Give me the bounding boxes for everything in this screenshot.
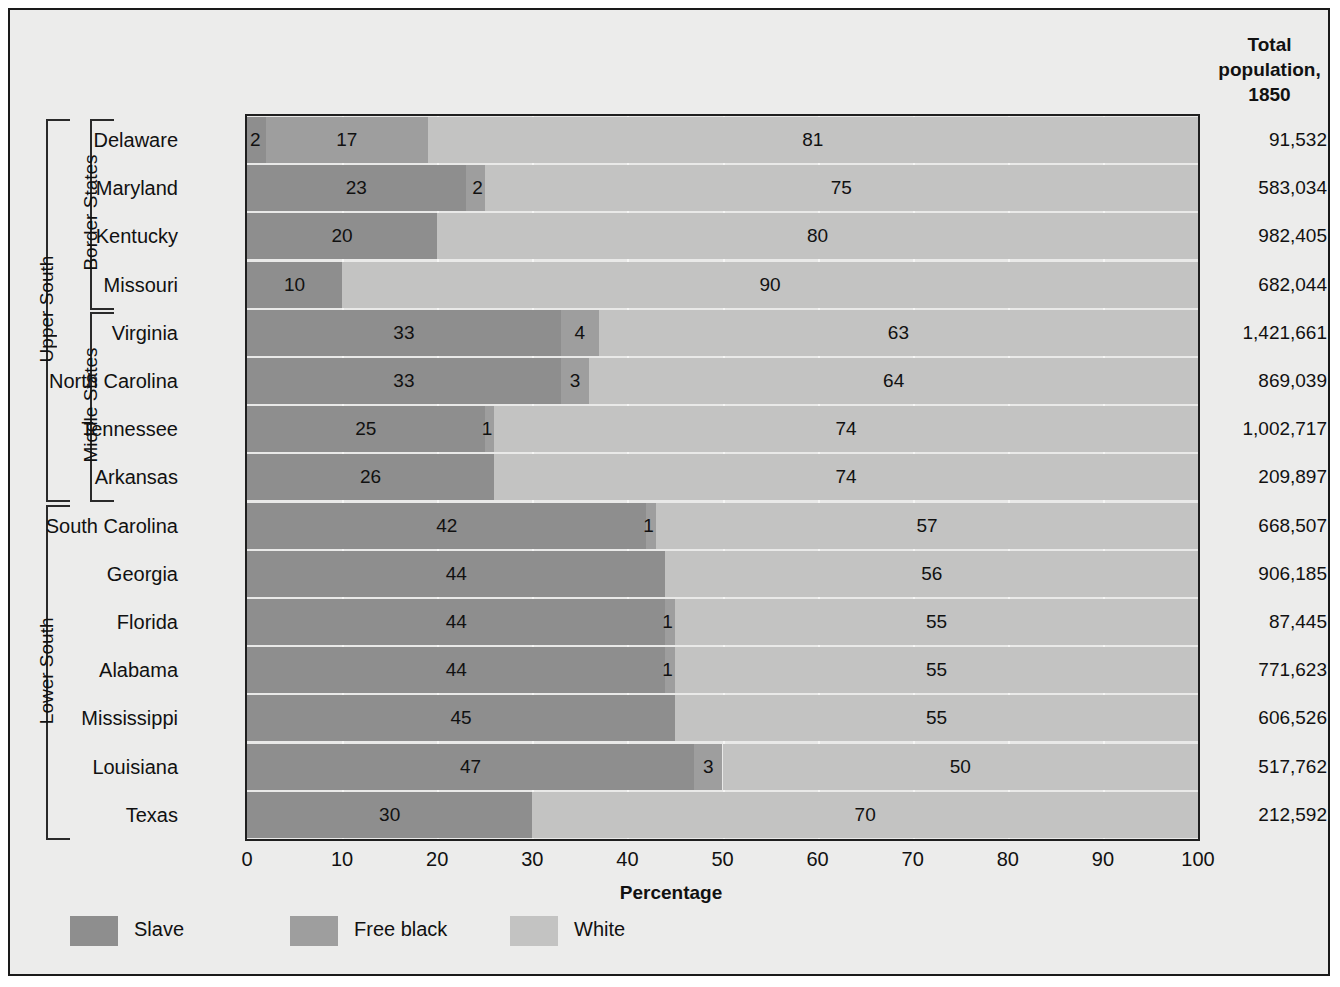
- chart-bar-row[interactable]: 42157: [247, 503, 1198, 549]
- legend-label: Free black: [354, 918, 447, 941]
- bar-segment-slave[interactable]: 23: [247, 165, 466, 211]
- chart-bar-row[interactable]: 23275: [247, 165, 1198, 211]
- total-population-value: 1,421,661: [1207, 310, 1327, 356]
- bar-segment-white[interactable]: 81: [428, 117, 1198, 163]
- chart-bar-row[interactable]: 2674: [247, 454, 1198, 500]
- bar-segment-white[interactable]: 56: [665, 551, 1198, 597]
- total-population-value: 771,623: [1207, 647, 1327, 693]
- bar-value-label: 70: [855, 804, 876, 826]
- bar-segment-slave[interactable]: 2: [247, 117, 266, 163]
- state-label: Mississippi: [0, 695, 178, 741]
- bar-segment-free[interactable]: 2: [466, 165, 485, 211]
- bar-value-label: 20: [332, 225, 353, 247]
- bar-value-label: 30: [379, 804, 400, 826]
- bar-value-label: 44: [446, 563, 467, 585]
- bar-segment-free[interactable]: 1: [665, 647, 675, 693]
- bar-segment-slave[interactable]: 30: [247, 792, 532, 838]
- bar-value-label: 10: [284, 274, 305, 296]
- bar-value-label: 1: [482, 418, 493, 440]
- bar-segment-white[interactable]: 64: [589, 358, 1198, 404]
- total-population-value: 209,897: [1207, 454, 1327, 500]
- chart-bar-row[interactable]: 3070: [247, 792, 1198, 838]
- bar-segment-slave[interactable]: 44: [247, 647, 665, 693]
- bar-segment-slave[interactable]: 20: [247, 213, 437, 259]
- bar-segment-free[interactable]: 3: [561, 358, 590, 404]
- bar-value-label: 57: [916, 515, 937, 537]
- bar-segment-slave[interactable]: 44: [247, 599, 665, 645]
- x-axis-tick-label: 0: [217, 848, 277, 871]
- bar-segment-slave[interactable]: 33: [247, 358, 561, 404]
- bar-value-label: 55: [926, 611, 947, 633]
- bar-value-label: 23: [346, 177, 367, 199]
- bar-segment-slave[interactable]: 45: [247, 695, 675, 741]
- x-axis-tick-label: 80: [978, 848, 1038, 871]
- bar-value-label: 44: [446, 659, 467, 681]
- bar-segment-slave[interactable]: 25: [247, 406, 485, 452]
- total-population-value: 87,445: [1207, 599, 1327, 645]
- bar-segment-free[interactable]: 1: [485, 406, 495, 452]
- chart-bar-row[interactable]: 33364: [247, 358, 1198, 404]
- total-population-header: Totalpopulation,1850: [1207, 32, 1332, 107]
- state-label: Delaware: [0, 117, 178, 163]
- bar-segment-white[interactable]: 63: [599, 310, 1198, 356]
- chart-bar-row[interactable]: 4456: [247, 551, 1198, 597]
- total-population-value: 91,532: [1207, 117, 1327, 163]
- state-label: Alabama: [0, 647, 178, 693]
- bar-value-label: 56: [921, 563, 942, 585]
- bar-value-label: 4: [575, 322, 586, 344]
- bar-segment-white[interactable]: 74: [494, 406, 1198, 452]
- bar-segment-white[interactable]: 74: [494, 454, 1198, 500]
- bar-segment-free[interactable]: 17: [266, 117, 428, 163]
- chart-bar-row[interactable]: 1090: [247, 262, 1198, 308]
- bar-segment-white[interactable]: 57: [656, 503, 1198, 549]
- bar-segment-slave[interactable]: 10: [247, 262, 342, 308]
- bar-value-label: 33: [393, 370, 414, 392]
- bar-segment-white[interactable]: 55: [675, 599, 1198, 645]
- bar-segment-free[interactable]: 4: [561, 310, 599, 356]
- state-label: North Carolina: [0, 358, 178, 404]
- chart-bars-container: 2178123275208010903346333364251742674421…: [247, 116, 1198, 839]
- bar-value-label: 1: [662, 659, 673, 681]
- total-population-value: 668,507: [1207, 503, 1327, 549]
- bar-segment-free[interactable]: 1: [646, 503, 656, 549]
- bar-segment-white[interactable]: 70: [532, 792, 1198, 838]
- chart-bar-row[interactable]: 25174: [247, 406, 1198, 452]
- bar-value-label: 75: [831, 177, 852, 199]
- bar-value-label: 90: [759, 274, 780, 296]
- total-population-header-line: Total: [1207, 32, 1332, 57]
- x-axis-tick-label: 50: [693, 848, 753, 871]
- total-population-header-line: population,: [1207, 57, 1332, 82]
- x-axis-title: Percentage: [10, 882, 1332, 904]
- chart-bar-row[interactable]: 47350: [247, 744, 1198, 790]
- chart-bar-row[interactable]: 44155: [247, 599, 1198, 645]
- x-axis-tick-label: 60: [788, 848, 848, 871]
- chart-bar-row[interactable]: 44155: [247, 647, 1198, 693]
- bar-segment-white[interactable]: 50: [723, 744, 1199, 790]
- bar-segment-white[interactable]: 55: [675, 695, 1198, 741]
- bar-segment-white[interactable]: 80: [437, 213, 1198, 259]
- state-label: Georgia: [0, 551, 178, 597]
- bar-segment-white[interactable]: 90: [342, 262, 1198, 308]
- bar-segment-free[interactable]: 3: [694, 744, 723, 790]
- bar-segment-slave[interactable]: 33: [247, 310, 561, 356]
- x-axis-tick-label: 30: [502, 848, 562, 871]
- bar-value-label: 2: [472, 177, 483, 199]
- state-label: Missouri: [0, 262, 178, 308]
- bar-segment-slave[interactable]: 42: [247, 503, 646, 549]
- chart-bar-row[interactable]: 33463: [247, 310, 1198, 356]
- bar-value-label: 42: [436, 515, 457, 537]
- bar-value-label: 80: [807, 225, 828, 247]
- bar-segment-white[interactable]: 55: [675, 647, 1198, 693]
- chart-bar-row[interactable]: 2080: [247, 213, 1198, 259]
- bar-segment-free[interactable]: 1: [665, 599, 675, 645]
- bar-segment-slave[interactable]: 47: [247, 744, 694, 790]
- x-axis-tick-label: 90: [1073, 848, 1133, 871]
- bar-value-label: 25: [355, 418, 376, 440]
- chart-bar-row[interactable]: 21781: [247, 117, 1198, 163]
- bar-segment-white[interactable]: 75: [485, 165, 1198, 211]
- chart-bar-row[interactable]: 4555: [247, 695, 1198, 741]
- total-population-value: 583,034: [1207, 165, 1327, 211]
- bar-segment-slave[interactable]: 44: [247, 551, 665, 597]
- bar-segment-slave[interactable]: 26: [247, 454, 494, 500]
- legend-label: Slave: [134, 918, 184, 941]
